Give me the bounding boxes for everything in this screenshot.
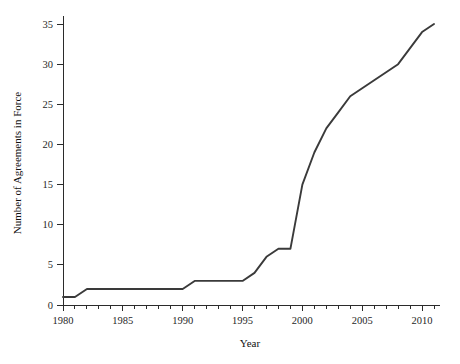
y-tick-label: 0 <box>48 300 53 311</box>
y-tick-label: 25 <box>43 99 54 110</box>
x-tick-label: 1980 <box>53 315 74 326</box>
y-tick-label: 20 <box>43 139 54 150</box>
x-axis-title: Year <box>240 337 261 349</box>
line-chart-svg: 1980198519901995200020052010051015202530… <box>0 0 460 364</box>
y-tick-label: 10 <box>43 219 54 230</box>
x-tick-label: 1995 <box>232 315 253 326</box>
tick-labels-group: 1980198519901995200020052010051015202530… <box>43 19 433 326</box>
y-tick-label: 30 <box>43 59 54 70</box>
ticks-group <box>57 24 434 311</box>
x-tick-label: 2010 <box>412 315 433 326</box>
axes-group <box>63 16 440 305</box>
y-tick-label: 35 <box>43 19 54 30</box>
y-tick-label: 15 <box>43 179 54 190</box>
data-series-line <box>63 24 434 297</box>
chart-figure: 1980198519901995200020052010051015202530… <box>0 0 460 364</box>
x-tick-label: 2005 <box>352 315 373 326</box>
x-tick-label: 1990 <box>172 315 193 326</box>
x-tick-label: 1985 <box>112 315 133 326</box>
y-axis-title: Number of Agreements in Force <box>11 92 23 234</box>
x-tick-label: 2000 <box>292 315 313 326</box>
y-tick-label: 5 <box>48 259 53 270</box>
data-series-group <box>63 24 434 297</box>
